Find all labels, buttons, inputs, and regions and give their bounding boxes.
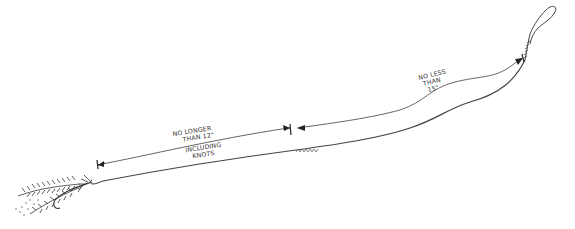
butt-right-arrow (515, 58, 523, 65)
fly-icon (15, 175, 103, 216)
tippet-right-arrow (283, 125, 290, 131)
butt-right-tick (522, 54, 524, 62)
leader-line (103, 60, 525, 181)
leader-diagram: NO LONGER THAN 12" INCLUDING KNOTS NO LE… (0, 0, 575, 229)
perfection-loop (524, 6, 556, 60)
tippet-left-arrow (98, 161, 104, 167)
butt-left-arrow (297, 125, 305, 131)
butt-dimension-line (298, 58, 522, 128)
butt-label-line3: 15" (427, 84, 440, 94)
